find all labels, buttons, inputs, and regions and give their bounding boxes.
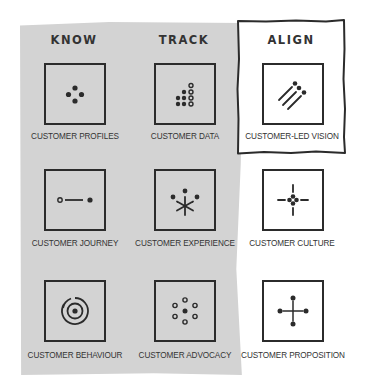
dot-line-dot-icon [46, 171, 104, 229]
customer-culture-tile [262, 169, 324, 231]
customer-advocacy-label: CUSTOMER ADVOCACY [125, 351, 245, 360]
asterisk-dots-icon [156, 171, 214, 229]
customer-proposition-label: CUSTOMER PROPOSITION [233, 351, 353, 360]
customer-led-vision-label: CUSTOMER-LED VISION [232, 132, 352, 141]
customer-journey-tile [44, 169, 106, 231]
customer-data-tile [154, 63, 216, 125]
customer-led-vision-tile [262, 63, 324, 125]
column-header-track: TRACK [134, 33, 234, 47]
customer-proposition-tile [262, 280, 324, 342]
customer-data-label: CUSTOMER DATA [125, 132, 245, 141]
column-header-align: ALIGN [241, 33, 341, 47]
customer-journey-label: CUSTOMER JOURNEY [15, 239, 135, 248]
customer-experience-tile [154, 169, 216, 231]
ring-of-dots-icon [156, 282, 214, 340]
customer-behaviour-label: CUSTOMER BEHAVIOUR [15, 351, 135, 360]
customer-culture-label: CUSTOMER CULTURE [232, 239, 352, 248]
column-header-know: KNOW [24, 33, 124, 47]
customer-profiles-label: CUSTOMER PROFILES [15, 132, 135, 141]
customer-advocacy-tile [154, 280, 216, 342]
cross-dots-icon [264, 282, 322, 340]
dot-staircase-icon [156, 65, 214, 123]
concentric-circles-icon [46, 282, 104, 340]
customer-experience-label: CUSTOMER EXPERIENCE [125, 239, 245, 248]
customer-behaviour-tile [44, 280, 106, 342]
four-dots-diamond-icon [46, 65, 104, 123]
diagonal-lines-dots-icon [264, 65, 322, 123]
crosshair-dots-icon [264, 171, 322, 229]
customer-profiles-tile [44, 63, 106, 125]
